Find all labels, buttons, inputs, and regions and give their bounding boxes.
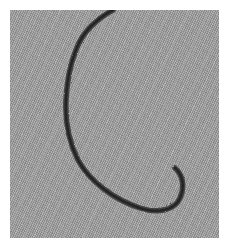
thread-icon	[10, 10, 219, 238]
fabric-photo	[10, 10, 219, 238]
